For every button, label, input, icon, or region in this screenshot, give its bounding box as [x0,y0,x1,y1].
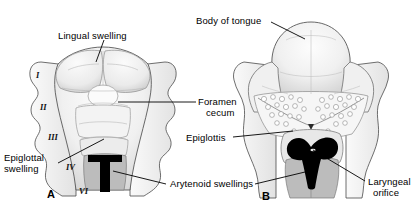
label-arytenoid-swellings: Arytenoid swellings [170,178,253,189]
arch-numeral-iv: IV [65,162,76,172]
panel-label-b: B [262,190,270,202]
tuberculum-impar [88,85,118,107]
laryngeal-orifice-line-2: orifice [373,187,411,198]
epiglottal-swelling-line-1: Epiglottal [4,152,44,163]
label-body-of-tongue: Body of tongue [196,15,261,26]
label-lingual-swelling: Lingual swelling [58,30,127,41]
panel-label-a: A [47,188,55,200]
label-laryngeal-orifice: Laryngeal orifice [368,176,411,198]
arch-numeral-iii: III [47,132,59,142]
label-epiglottis: Epiglottis [186,132,226,143]
arch-numeral-i: I [35,70,40,80]
epiglottal-swelling-line-2: swelling [4,163,44,174]
label-foramen-cecum: Foramen cecum [198,96,237,118]
tongue-development-figure: I II III IV VI Lingual swelling Body of … [0,0,419,216]
foramen-cecum-line-1: Foramen [198,96,237,107]
arch-numeral-vi: VI [79,186,89,196]
arch-numeral-ii: II [39,102,47,112]
laryngeal-orifice-line-1: Laryngeal [368,176,411,187]
panel-b-drawing [233,22,388,198]
foramen-cecum-line-2: cecum [206,107,237,118]
label-epiglottal-swelling: Epiglottal swelling [4,152,44,174]
panel-a-drawing [30,47,176,196]
